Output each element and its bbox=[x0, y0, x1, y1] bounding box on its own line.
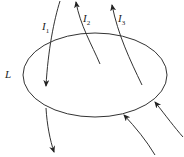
external-current-up-arrow-2 bbox=[155, 102, 183, 137]
external-current-up-arrow-1 bbox=[124, 115, 155, 155]
loop-L bbox=[23, 33, 167, 117]
current-I3-label: I3 bbox=[117, 12, 126, 27]
diagram-canvas: L I1 I2 I3 bbox=[0, 0, 184, 157]
loop-label: L bbox=[4, 68, 11, 80]
current-I2-label: I2 bbox=[82, 12, 91, 27]
current-I1-label: I1 bbox=[41, 20, 50, 35]
current-I3-arrow bbox=[112, 5, 142, 85]
external-current-down-arrow bbox=[46, 108, 54, 152]
